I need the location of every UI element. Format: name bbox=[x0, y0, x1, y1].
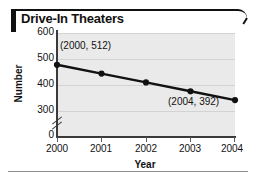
page-title: Drive-In Theaters bbox=[21, 11, 124, 26]
frame-bottom-rule bbox=[8, 171, 248, 172]
title-accent-bar bbox=[11, 9, 16, 32]
y-tick-label-400: 400 bbox=[22, 78, 54, 89]
x-tick-2002 bbox=[146, 137, 147, 142]
y-tick-label-600: 600 bbox=[22, 26, 54, 37]
y-axis-break-icon bbox=[51, 117, 62, 129]
x-axis-title: Year bbox=[55, 159, 235, 170]
x-tick-label-2000: 2000 bbox=[37, 143, 77, 154]
x-tick-2004 bbox=[234, 137, 235, 142]
y-tick-label-300: 300 bbox=[22, 104, 54, 115]
gridline-400 bbox=[57, 85, 235, 86]
gridline-500 bbox=[57, 59, 235, 60]
y-tick-label-0: 0 bbox=[22, 129, 54, 140]
x-tick-2000 bbox=[57, 137, 58, 142]
annotation-start-point: (2000, 512) bbox=[60, 40, 111, 51]
gridline-300 bbox=[57, 111, 235, 112]
x-tick-label-2001: 2001 bbox=[81, 143, 121, 154]
x-tick-2001 bbox=[101, 137, 102, 142]
x-tick-label-2003: 2003 bbox=[170, 143, 210, 154]
x-tick-label-2004: 2004 bbox=[212, 143, 252, 154]
x-tick-2003 bbox=[190, 137, 191, 142]
y-tick-label-500: 500 bbox=[22, 52, 54, 63]
chart-figure: Drive-In Theaters Number 600 500 400 300… bbox=[0, 0, 257, 178]
x-tick-label-2002: 2002 bbox=[126, 143, 166, 154]
annotation-end-point: (2004, 392) bbox=[168, 96, 219, 107]
gridline-600 bbox=[57, 33, 235, 34]
